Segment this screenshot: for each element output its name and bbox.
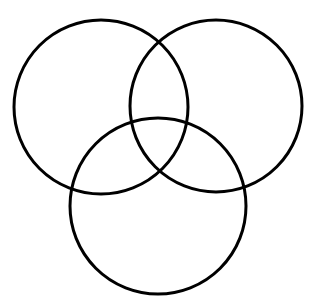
venn-diagram xyxy=(0,0,322,305)
circle-top-right xyxy=(130,20,302,192)
circle-bottom xyxy=(70,118,246,294)
circle-top-left xyxy=(14,20,188,194)
venn-diagram-canvas xyxy=(0,0,322,305)
